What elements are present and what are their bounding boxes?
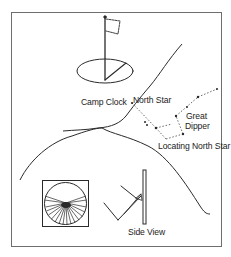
- north-star-label: North Star: [133, 96, 171, 105]
- illustration: Camp Clock North Star Great Dipper Locat…: [0, 0, 231, 257]
- great-dipper-label-line1: Great: [186, 112, 207, 121]
- great-dipper-label-line2: Dipper: [185, 122, 210, 131]
- camp-clock-label: Camp Clock: [81, 98, 127, 107]
- sundial-face-icon: [43, 181, 89, 227]
- side-view-label: Side View: [128, 228, 165, 237]
- locating-north-star-label: Locating North Star: [158, 142, 230, 151]
- horizon-curve-upper: [63, 44, 182, 131]
- camp-clock-icon: [77, 16, 133, 83]
- side-view-icon: [104, 170, 146, 224]
